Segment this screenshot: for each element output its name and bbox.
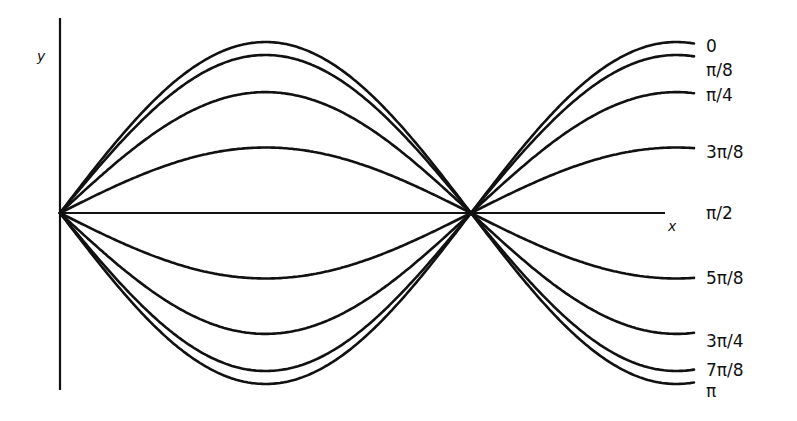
phase-label: π/4: [706, 85, 733, 105]
wave-curve: [60, 42, 694, 213]
standing-wave-figure: y x 0π/8π/43π/8π/25π/83π/47π/8π: [0, 0, 797, 421]
phase-label: 5π/8: [706, 268, 744, 288]
phase-label: 7π/8: [706, 360, 744, 380]
phase-label: 3π/4: [706, 331, 744, 351]
wave-curve: [60, 148, 694, 214]
phase-label: π/2: [706, 203, 733, 223]
wave-curve: [60, 213, 694, 279]
y-axis-label: y: [36, 48, 46, 64]
phase-label: π: [706, 381, 716, 401]
x-axis-label: x: [667, 218, 677, 234]
wave-curve: [60, 213, 694, 384]
phase-label: 0: [706, 36, 717, 56]
phase-label: 3π/8: [706, 142, 744, 162]
phase-label: π/8: [706, 60, 733, 80]
phase-labels: 0π/8π/43π/8π/25π/83π/47π/8π: [706, 36, 744, 401]
